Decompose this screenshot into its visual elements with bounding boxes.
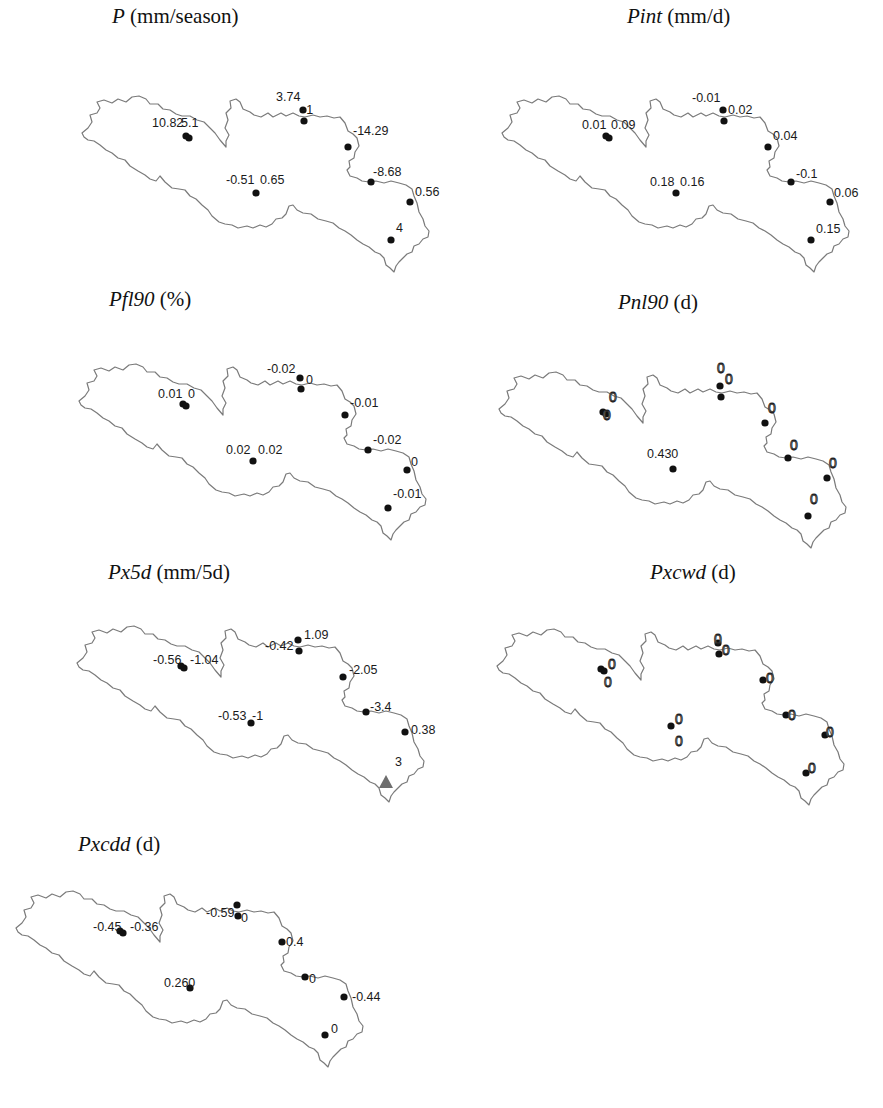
map-panel-pxcwd: 0000000000 — [497, 629, 844, 805]
station-value-label: -3.4 — [370, 700, 392, 714]
basin-outline — [79, 364, 426, 540]
station-value-label: 0 — [331, 1022, 338, 1036]
station-value-label: -0.02 — [267, 362, 296, 376]
station-value-label: 3 — [395, 755, 402, 769]
station-dot — [804, 512, 811, 519]
station-value-label: 0 — [241, 911, 248, 925]
station-value-label: 0.02 — [226, 443, 250, 457]
station-value-label: 0 — [810, 491, 818, 507]
station-dot — [185, 134, 192, 141]
station-dot — [300, 117, 307, 124]
station-value-label: 0 — [608, 656, 616, 672]
station-value-label: -1 — [302, 103, 313, 117]
station-value-label: -2.05 — [349, 663, 378, 677]
station-value-label: -8.68 — [373, 165, 402, 179]
station-value-label: 0 — [306, 373, 313, 387]
station-dot — [406, 198, 413, 205]
station-value-label: 0 — [411, 455, 418, 469]
station-dot — [295, 647, 302, 654]
station-dot — [403, 466, 410, 473]
station-value-label: 0.430 — [647, 447, 678, 461]
station-dot — [341, 411, 348, 418]
station-dot — [401, 728, 408, 735]
station-value-label: 0 — [768, 400, 776, 416]
station-value-label: 0 — [829, 455, 837, 471]
basin-outline — [82, 96, 429, 272]
basin-outline — [502, 96, 849, 272]
station-value-label: -0.01 — [350, 396, 379, 410]
station-dot — [716, 382, 723, 389]
station-dot — [362, 708, 369, 715]
station-value-label: 0.4 — [286, 935, 303, 949]
map-panel-pfl90: 0.010-0.020-0.01-0.020-0.010.020.02 — [79, 362, 426, 540]
station-value-label: -14.29 — [353, 124, 388, 138]
station-dot — [761, 419, 768, 426]
station-dot — [249, 457, 256, 464]
station-value-label: 0 — [604, 674, 612, 690]
station-value-label: -0.44 — [352, 990, 381, 1004]
map-panel-p: 10.825.13.74-1-14.29-8.680.564-0.510.65 — [82, 90, 439, 272]
station-dot — [784, 454, 791, 461]
station-dot — [667, 722, 674, 729]
station-value-label: 0 — [309, 972, 316, 986]
station-value-label: -1 — [252, 709, 263, 723]
station-value-label: 0.02 — [258, 443, 282, 457]
station-dot — [367, 178, 374, 185]
station-value-label: 0.56 — [415, 185, 439, 199]
station-dot — [787, 178, 794, 185]
station-value-label: -0.01 — [692, 91, 721, 105]
station-dot — [720, 117, 727, 124]
station-value-label: 0 — [722, 642, 730, 658]
station-value-label: -0.42 — [265, 639, 294, 653]
station-value-label: 0.18 — [650, 175, 674, 189]
station-dot — [387, 236, 394, 243]
station-value-label: 0.15 — [816, 222, 840, 236]
station-dot — [301, 973, 308, 980]
station-value-label: 0.06 — [834, 186, 858, 200]
station-dot — [182, 402, 189, 409]
map-panel-px5d: -0.56-1.04-0.421.09-2.05-3.40.383-0.53-1 — [77, 626, 435, 802]
station-value-label: 0 — [714, 631, 722, 647]
station-value-label: 10.82 — [152, 116, 183, 130]
station-dot — [669, 465, 676, 472]
station-dot — [823, 474, 830, 481]
station-dot — [364, 446, 371, 453]
station-value-label: 0 — [188, 387, 195, 401]
station-dot — [321, 1031, 328, 1038]
basin-outline — [77, 626, 424, 802]
station-value-label: 1.09 — [304, 628, 328, 642]
station-value-label: 0.04 — [773, 129, 797, 143]
station-value-label: -0.02 — [373, 433, 402, 447]
station-value-label: 0 — [725, 371, 733, 387]
station-value-label: 0.02 — [728, 103, 752, 117]
station-value-label: 0 — [808, 760, 816, 776]
station-dot — [764, 143, 771, 150]
station-value-label: 0.38 — [411, 723, 435, 737]
station-value-label: -1.04 — [190, 653, 219, 667]
station-dot — [252, 189, 259, 196]
station-value-label: 0 — [790, 437, 798, 453]
station-value-label: 3.74 — [276, 90, 300, 104]
station-value-label: -0.01 — [393, 487, 422, 501]
station-dot — [297, 385, 304, 392]
station-dot — [384, 504, 391, 511]
station-value-label: 0.16 — [680, 175, 704, 189]
map-panel-pxcdd: -0.45-0.36-0.5900.40-0.4400.260 — [16, 891, 381, 1067]
map-panel-pnl90: 000000000.430 — [499, 360, 846, 548]
station-value-label: 0 — [717, 360, 725, 376]
station-value-label: 0.01 — [158, 387, 182, 401]
station-value-label: 0 — [603, 407, 611, 423]
station-value-label: 0 — [675, 733, 683, 749]
station-value-label: 0 — [788, 707, 796, 723]
station-value-label: -0.51 — [226, 173, 255, 187]
station-value-label: -0.45 — [93, 920, 122, 934]
station-value-label: 4 — [396, 221, 403, 235]
station-value-label: -0.1 — [796, 167, 818, 181]
station-value-label: 0 — [766, 670, 774, 686]
station-dot — [717, 393, 724, 400]
station-value-label: -0.56 — [153, 653, 182, 667]
station-value-label: 0 — [609, 389, 617, 405]
station-dot — [344, 143, 351, 150]
station-dot — [672, 189, 679, 196]
map-panel-pint: 0.010.09-0.010.020.04-0.10.060.150.180.1… — [502, 91, 858, 272]
